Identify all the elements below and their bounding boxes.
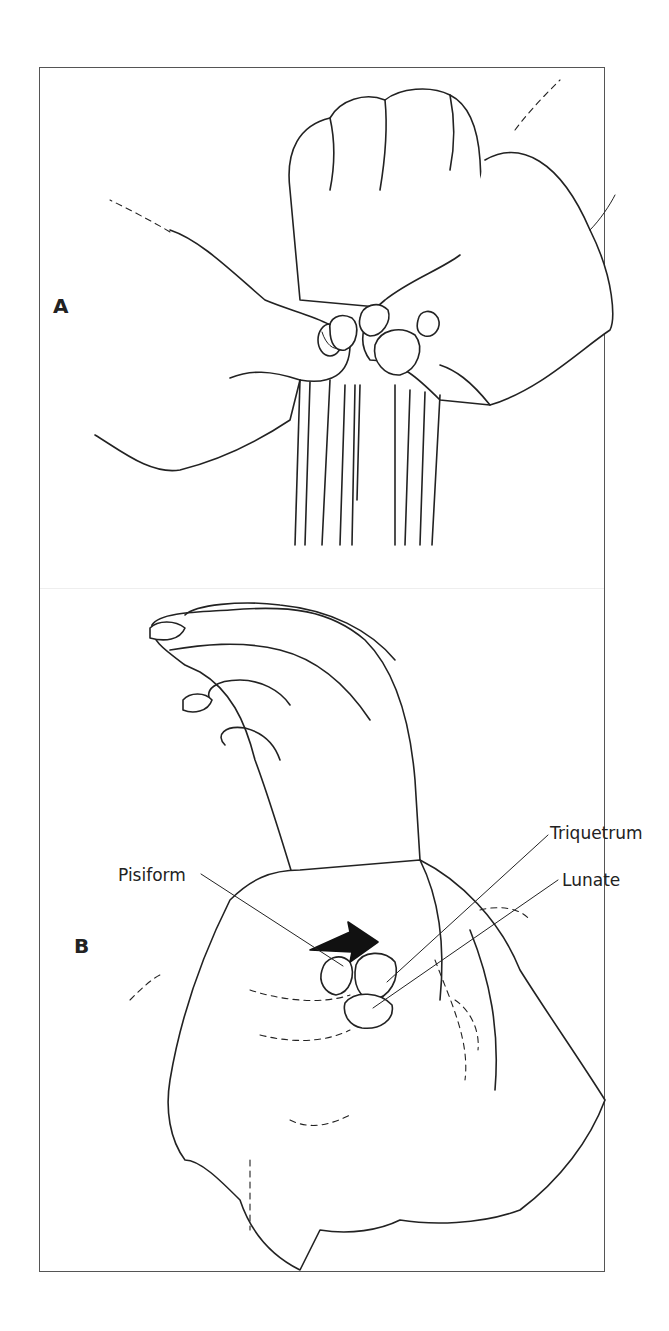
label-lunate: Lunate — [562, 870, 620, 890]
panel-label-b: B — [74, 934, 89, 958]
panel-b-illustration — [130, 603, 605, 1270]
illustration — [0, 0, 669, 1331]
panel-label-a: A — [53, 294, 68, 318]
panel-a-illustration — [95, 80, 615, 545]
label-triquetrum: Triquetrum — [550, 823, 643, 843]
label-pisiform: Pisiform — [118, 865, 186, 885]
